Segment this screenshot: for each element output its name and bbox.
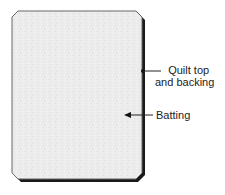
quilt-top-label-line1: Quilt top — [163, 64, 214, 76]
quilt-top-label-line2: and backing — [155, 76, 214, 88]
batting-label: Batting — [156, 109, 190, 121]
quilt-diagram — [0, 0, 225, 195]
quilt-top-label: Quilt top and backing — [163, 64, 214, 88]
batting-layer — [12, 11, 142, 179]
